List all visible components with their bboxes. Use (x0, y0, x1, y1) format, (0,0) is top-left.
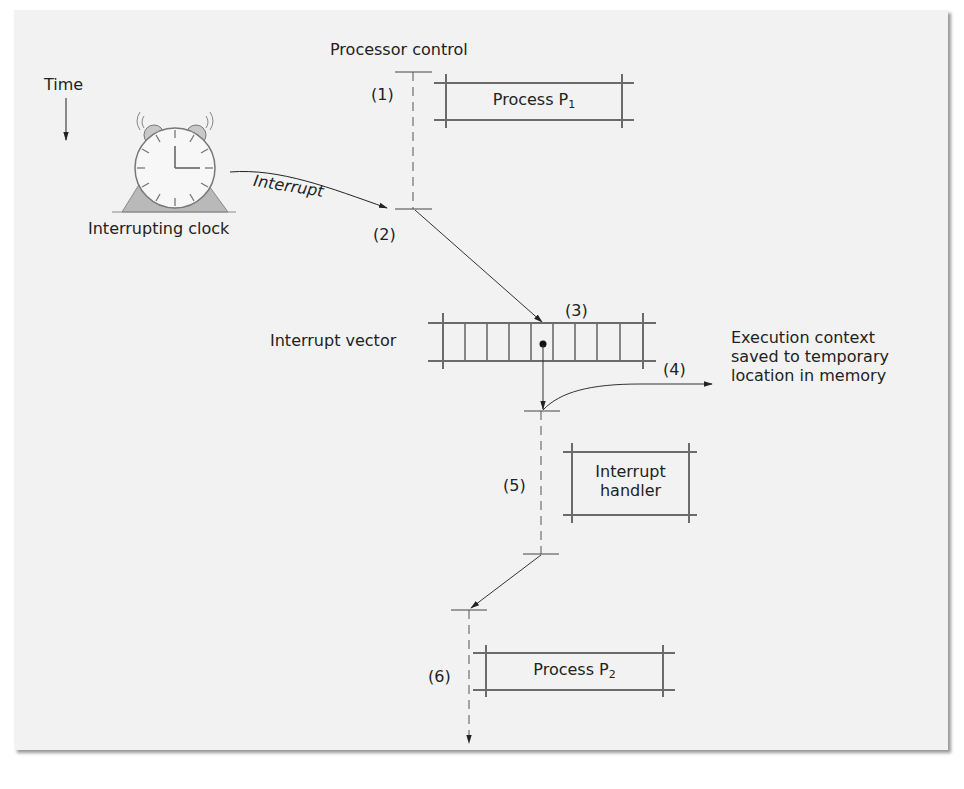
interrupt-handler-label: Interrupt handler (572, 462, 689, 500)
alarm-clock-icon (112, 112, 236, 212)
interrupt-diagram (0, 0, 964, 789)
timeline-segment-3 (451, 610, 487, 743)
processor-control-label: Processor control (330, 41, 468, 59)
step-3-label: (3) (565, 302, 588, 320)
process-p2-label: Process P2 (486, 660, 663, 681)
step-2-label: (2) (373, 226, 396, 244)
timeline-segment-1 (395, 72, 432, 209)
dispatch-arrow (471, 555, 541, 608)
time-label: Time (44, 76, 83, 94)
context-save-label: Execution context saved to temporary loc… (731, 328, 889, 385)
step-4-label: (4) (663, 361, 686, 379)
vector-lookup-arrow (415, 210, 542, 322)
clock-label: Interrupting clock (88, 220, 229, 238)
context-save-arrow (543, 384, 712, 410)
step-6-label: (6) (428, 668, 451, 686)
step-1-label: (1) (371, 86, 394, 104)
interrupt-vector-label: Interrupt vector (270, 332, 396, 350)
timeline-segment-2 (523, 411, 560, 554)
process-p1-label: Process P1 (446, 90, 622, 111)
step-5-label: (5) (503, 477, 526, 495)
